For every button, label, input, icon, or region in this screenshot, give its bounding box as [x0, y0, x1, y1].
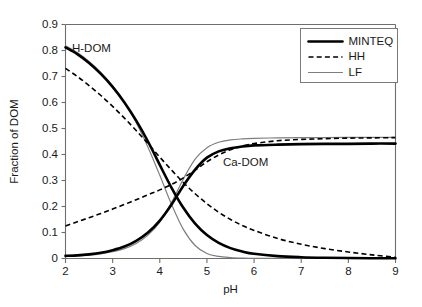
y-axis-ticks: 00.10.20.30.40.50.60.70.80.9 — [42, 18, 66, 264]
x-tick-label: 5 — [204, 265, 210, 277]
fraction-of-dom-vs-ph-chart: 00.10.20.30.40.50.60.70.80.9 23456789 H-… — [0, 0, 422, 307]
y-tick-label: 0.9 — [42, 18, 58, 30]
y-tick-label: 0.5 — [42, 122, 58, 134]
x-tick-label: 6 — [251, 265, 257, 277]
y-tick-label: 0.2 — [42, 200, 58, 212]
y-tick-label: 0.1 — [42, 226, 58, 238]
x-tick-label: 3 — [109, 265, 115, 277]
curve-annotations: H-DOMCa-DOM — [72, 42, 268, 168]
legend-label-lf: LF — [349, 66, 362, 78]
annotation-h-dom: H-DOM — [72, 42, 111, 54]
y-tick-label: 0.3 — [42, 174, 58, 186]
x-tick-label: 2 — [62, 265, 68, 277]
x-tick-label: 4 — [157, 265, 164, 277]
x-tick-label: 9 — [392, 265, 398, 277]
legend-label-minteq: MINTEQ — [349, 35, 394, 47]
y-tick-label: 0.7 — [42, 70, 58, 82]
series-line-lf-ca-dom — [66, 137, 396, 256]
chart-legend: MINTEQHHLF — [301, 29, 398, 83]
y-tick-label: 0 — [52, 252, 58, 264]
y-tick-label: 0.4 — [42, 148, 59, 160]
y-tick-label: 0.6 — [42, 96, 58, 108]
legend-label-hh: HH — [349, 50, 366, 62]
y-axis-title: Fraction of DOM — [8, 99, 20, 183]
x-tick-label: 7 — [298, 265, 304, 277]
x-axis-title: pH — [223, 283, 238, 295]
x-axis-ticks: 23456789 — [62, 259, 398, 277]
annotation-ca-dom: Ca-DOM — [223, 156, 268, 168]
chart-container: 00.10.20.30.40.50.60.70.80.9 23456789 H-… — [0, 0, 422, 307]
x-tick-label: 8 — [345, 265, 351, 277]
series-line-hh-ca-dom — [66, 138, 396, 226]
y-tick-label: 0.8 — [42, 44, 58, 56]
